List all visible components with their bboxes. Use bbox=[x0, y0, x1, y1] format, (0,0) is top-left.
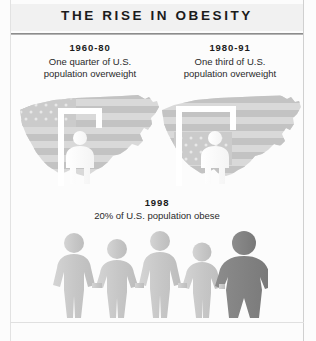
title-divider-rule bbox=[11, 33, 303, 35]
person-figure-1 bbox=[53, 233, 95, 318]
panel-1960-80-caption-line-2: population overweight bbox=[20, 68, 160, 80]
bottom-year: 1998 bbox=[11, 197, 303, 208]
page-title: THE RISE IN OBESITY bbox=[11, 8, 303, 23]
person-figure-5-obese bbox=[215, 231, 268, 318]
panel-1980-91: 1980-91 One third of U.S. population ove… bbox=[160, 42, 300, 80]
panel-1960-80-caption-line-1: One quarter of U.S. bbox=[20, 56, 160, 68]
panel-1960-80: 1960-80 One quarter of U.S. population o… bbox=[20, 42, 160, 80]
us-map-svg-right bbox=[156, 88, 306, 186]
panel-1980-91-caption-line-1: One third of U.S. bbox=[160, 56, 300, 68]
frame-border-bottom bbox=[10, 322, 304, 323]
us-map-flag-icon-1960-80 bbox=[14, 88, 164, 186]
obesity-infographic: THE RISE IN OBESITY 1960-80 One quarter … bbox=[0, 0, 316, 341]
frame-border-left bbox=[10, 0, 11, 341]
person-figure-4 bbox=[182, 243, 222, 319]
person-figure-3 bbox=[139, 231, 181, 318]
people-pictogram-row bbox=[52, 228, 268, 320]
panel-1980-91-year: 1980-91 bbox=[160, 42, 300, 53]
us-map-flag-icon-1980-91 bbox=[156, 88, 306, 186]
bottom-caption: 20% of U.S. population obese bbox=[11, 210, 303, 221]
panel-1960-80-year: 1960-80 bbox=[20, 42, 160, 53]
panel-1980-91-caption-line-2: population overweight bbox=[160, 68, 300, 80]
people-pictogram-svg bbox=[52, 228, 268, 320]
person-figure-2 bbox=[96, 239, 138, 318]
us-map-svg-left bbox=[14, 88, 164, 186]
